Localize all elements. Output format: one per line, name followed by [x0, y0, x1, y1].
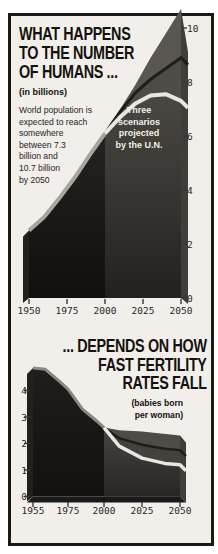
- x-tick-label: 2050: [164, 505, 196, 516]
- x-tick-label: 2025: [127, 305, 159, 316]
- note-line: World population is: [19, 105, 92, 117]
- x-tick-label: 1950: [13, 305, 45, 316]
- y-tick-label: 4: [9, 385, 27, 396]
- units-line: per woman): [131, 410, 183, 422]
- x-tick-label: 1975: [52, 505, 84, 516]
- title-line: WHAT HAPPENS: [19, 25, 134, 44]
- top-chart-units-label: (in billions): [19, 87, 67, 97]
- x-tick-label: 2000: [89, 305, 121, 316]
- y-tick-label: 2: [9, 438, 27, 449]
- y-tick-label: 4: [187, 185, 205, 196]
- title-line: TO THE NUMBER: [19, 44, 134, 63]
- title-line: OF HUMANS ...: [19, 63, 134, 82]
- bottom-chart-units-label: (babies born per woman): [131, 398, 183, 421]
- y-tick-label: 2: [187, 239, 205, 250]
- note-line: by 2050: [19, 175, 92, 187]
- top-chart-title: WHAT HAPPENS TO THE NUMBER OF HUMANS ...: [19, 25, 134, 82]
- y-tick-label: 0: [187, 293, 205, 304]
- x-tick-label: 1975: [51, 305, 83, 316]
- bottom-chart-title: ... DEPENDS ON HOW FAST FERTILITY RATES …: [63, 337, 207, 393]
- y-tick-label: 0: [9, 491, 27, 502]
- y-tick-label: 6: [187, 131, 205, 142]
- note-line: between 7.3: [19, 140, 92, 152]
- top-chart-note: World population is expected to reach so…: [19, 105, 92, 186]
- y-tick-label: 10: [187, 23, 205, 34]
- y-tick-label: 8: [187, 77, 205, 88]
- title-line: ... DEPENDS ON HOW: [63, 337, 207, 356]
- annotation-line: projected: [98, 128, 180, 140]
- x-tick-label: 1955: [17, 505, 49, 516]
- x-tick-label: 2000: [88, 505, 120, 516]
- y-tick-label: 1: [9, 465, 27, 476]
- title-line: FAST FERTILITY: [63, 356, 207, 375]
- title-line: RATES FALL: [63, 374, 207, 393]
- annotation-line: by the U.N.: [98, 140, 180, 152]
- note-line: expected to reach: [19, 117, 92, 129]
- note-line: 10.7 billion: [19, 163, 92, 175]
- annotation-line: scenarios: [98, 117, 180, 129]
- x-tick-label: 2050: [165, 305, 197, 316]
- note-line: billion and: [19, 151, 92, 163]
- y-tick-label: 3: [9, 412, 27, 423]
- x-tick-label: 2025: [126, 505, 158, 516]
- units-line: (babies born: [131, 398, 183, 410]
- population-infographic: 1950197520002025205002468101955197520002…: [0, 0, 218, 554]
- scenarios-annotation: Three scenarios projected by the U.N.: [98, 105, 180, 151]
- note-line: somewhere: [19, 128, 92, 140]
- annotation-line: Three: [98, 105, 180, 117]
